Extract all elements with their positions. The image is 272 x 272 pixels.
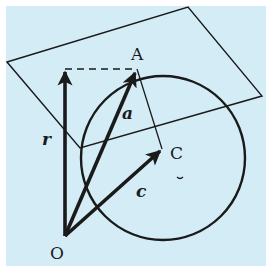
label-point-C: C (170, 143, 183, 163)
label-vector-c: c (136, 181, 147, 201)
label-point-O: O (50, 243, 64, 263)
vector-geometry-diagram: A C O r a c (0, 0, 272, 272)
diagram-stage: A C O r a c (0, 0, 272, 272)
label-vector-r: r (42, 129, 52, 149)
label-vector-a: a (122, 103, 133, 123)
label-point-A: A (130, 44, 144, 64)
